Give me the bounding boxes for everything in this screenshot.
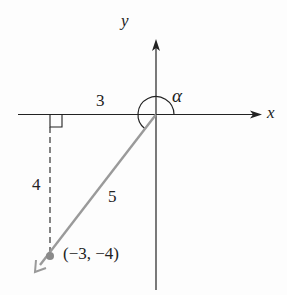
point-marker — [46, 252, 54, 260]
diagram-graphics — [0, 0, 287, 295]
angle-label: α — [172, 86, 182, 105]
y-axis-label: y — [121, 12, 129, 29]
horizontal-side-label: 3 — [96, 92, 105, 109]
point-label: (−3, −4) — [63, 245, 119, 262]
ray-arrow-icon — [35, 260, 46, 272]
vertical-side-label: 4 — [32, 176, 41, 193]
right-angle-marker — [50, 115, 62, 128]
hypotenuse-label: 5 — [108, 188, 117, 205]
x-axis-label: x — [267, 104, 275, 121]
terminal-ray — [40, 115, 156, 266]
diagram: y x α 3 4 5 (−3, −4) — [0, 0, 287, 295]
